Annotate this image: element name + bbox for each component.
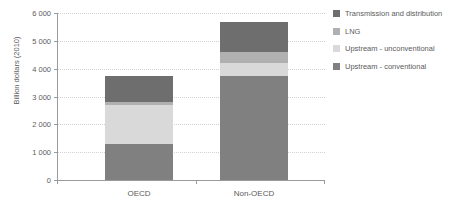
bar-segment bbox=[220, 63, 288, 76]
x-axis-tick bbox=[57, 180, 58, 184]
bar-segment bbox=[105, 76, 173, 102]
legend-item[interactable]: Transmission and distribution bbox=[333, 9, 457, 18]
y-axis-tick-label: 6 000 bbox=[32, 9, 51, 18]
y-axis-tick bbox=[54, 69, 57, 70]
bar-oecd bbox=[105, 76, 173, 180]
y-axis-tick bbox=[54, 41, 57, 42]
y-axis-tick-label: 5 000 bbox=[32, 36, 51, 45]
legend-swatch-icon bbox=[333, 63, 340, 70]
plot-area: 01 0002 0003 0004 0005 0006 000 OECDNon-… bbox=[57, 13, 325, 181]
y-axis-tick-label: 3 000 bbox=[32, 92, 51, 101]
x-axis-label-non-oecd: Non-OECD bbox=[234, 189, 274, 198]
bar-segment bbox=[105, 144, 173, 180]
legend-swatch-icon bbox=[333, 10, 340, 17]
legend-swatch-icon bbox=[333, 28, 340, 35]
y-axis-tick-label: 2 000 bbox=[32, 120, 51, 129]
y-axis-tick-label: 1 000 bbox=[32, 148, 51, 157]
x-axis-tick bbox=[324, 180, 325, 184]
y-axis-tick-label: 0 bbox=[47, 176, 51, 185]
x-axis-line bbox=[57, 180, 325, 181]
x-axis-label-oecd: OECD bbox=[127, 189, 150, 198]
y-axis-tick bbox=[54, 124, 57, 125]
chart-root: Billion dollars (2010) 01 0002 0003 0004… bbox=[0, 0, 457, 210]
legend-item-label: LNG bbox=[345, 27, 360, 36]
y-axis-tick bbox=[54, 152, 57, 153]
legend-item[interactable]: Upstream - unconventional bbox=[333, 44, 457, 53]
bar-segment bbox=[220, 76, 288, 180]
legend-item-label: Upstream - conventional bbox=[345, 62, 426, 71]
bar-non-oecd bbox=[220, 22, 288, 180]
gridline bbox=[58, 13, 325, 14]
legend-item-label: Transmission and distribution bbox=[345, 9, 442, 18]
legend-item[interactable]: LNG bbox=[333, 27, 457, 36]
x-axis-tick bbox=[196, 180, 197, 184]
bar-segment bbox=[220, 22, 288, 52]
y-axis-tick bbox=[54, 13, 57, 14]
bar-segment bbox=[220, 52, 288, 63]
chart-legend: Transmission and distributionLNGUpstream… bbox=[333, 9, 457, 79]
y-axis-title: Billion dollars (2010) bbox=[12, 11, 21, 131]
legend-item-label: Upstream - unconventional bbox=[345, 44, 435, 53]
y-axis-tick-label: 4 000 bbox=[32, 64, 51, 73]
legend-item[interactable]: Upstream - conventional bbox=[333, 62, 457, 71]
bar-segment bbox=[105, 105, 173, 143]
legend-swatch-icon bbox=[333, 45, 340, 52]
y-axis-tick bbox=[54, 97, 57, 98]
